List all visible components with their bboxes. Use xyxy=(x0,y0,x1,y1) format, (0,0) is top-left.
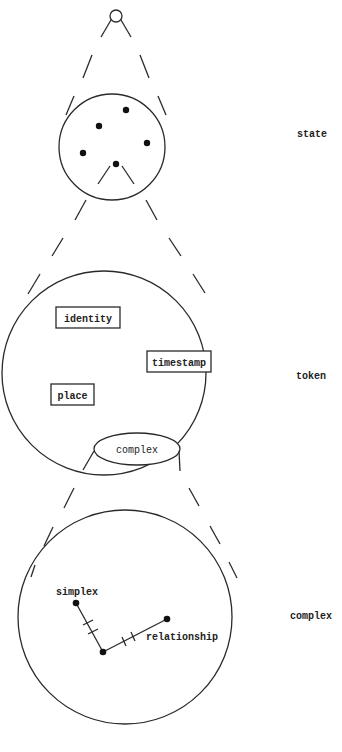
junction-node xyxy=(100,649,107,656)
hierarchy-diagram: identity timestamp place complex xyxy=(0,0,342,752)
state-dot-selected xyxy=(113,161,119,167)
origin-node xyxy=(66,10,166,115)
state-dot xyxy=(123,107,129,113)
state-circle xyxy=(59,94,165,200)
svg-text:place: place xyxy=(57,391,87,402)
identity-field: identity xyxy=(56,307,120,328)
place-field: place xyxy=(51,384,94,405)
state-to-token-cone xyxy=(28,200,205,294)
level-label-complex: complex xyxy=(290,611,332,622)
state-dot xyxy=(80,150,86,156)
simplex-relationship-graph: simplex relationship xyxy=(56,587,218,655)
state-dot xyxy=(96,123,102,129)
complex-circle: simplex relationship xyxy=(18,510,232,724)
svg-text:timestamp: timestamp xyxy=(152,358,206,369)
relationship-node xyxy=(164,616,171,623)
simplex-node xyxy=(73,600,80,607)
token-circle: identity timestamp place complex xyxy=(2,271,211,475)
token-to-complex-cone xyxy=(31,488,237,578)
state-dot xyxy=(144,140,150,146)
level-label-state: state xyxy=(297,129,327,140)
complex-ellipse: complex xyxy=(83,433,180,471)
relationship-label: relationship xyxy=(146,632,218,643)
level-label-token: token xyxy=(296,371,326,382)
svg-text:complex: complex xyxy=(116,445,158,456)
svg-text:identity: identity xyxy=(64,314,112,325)
timestamp-field: timestamp xyxy=(147,351,211,372)
simplex-label: simplex xyxy=(56,587,98,598)
